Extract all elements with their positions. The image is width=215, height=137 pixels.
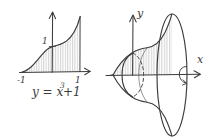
rotation-arrow [179, 67, 186, 86]
x-tick-label-minus-one: -1 [17, 75, 26, 85]
y-tick-label-one: 1 [42, 36, 48, 46]
equation-tail: +1 [63, 85, 81, 99]
equation-label-left: y = x 3 +1 [31, 81, 81, 99]
x-tick-label-one: 1 [75, 75, 81, 85]
y-axis-label-right: y [136, 7, 144, 20]
right-panel: y x [106, 7, 204, 136]
sketch-canvas: -1 1 1 y = x 3 +1 [0, 0, 215, 137]
x-axis-label-right: x [197, 53, 204, 66]
equation-main: y = x [31, 85, 63, 99]
left-panel: -1 1 1 y = x 3 +1 [17, 10, 90, 99]
figure-svg: -1 1 1 y = x 3 +1 [0, 0, 215, 137]
